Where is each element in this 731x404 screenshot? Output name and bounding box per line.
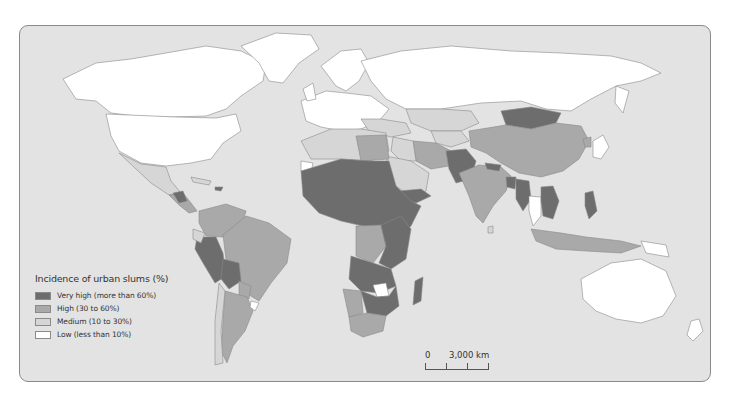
legend-item-low: Low (less than 10%) xyxy=(35,328,168,341)
legend-swatch-high xyxy=(35,305,51,313)
legend-label-high: High (30 to 60%) xyxy=(57,304,119,313)
kamchatka xyxy=(615,86,629,113)
indonesia-malaysia xyxy=(531,229,641,253)
iraq-syria xyxy=(391,137,416,161)
legend-swatch-very-high xyxy=(35,292,51,300)
sri-lanka xyxy=(488,226,493,233)
canada-alaska xyxy=(63,46,266,117)
brazil xyxy=(223,216,291,301)
map-panel: Incidence of urban slums (%) Very high (… xyxy=(19,25,711,382)
legend-label-low: Low (less than 10%) xyxy=(57,330,131,339)
philippines xyxy=(585,191,597,219)
scandinavia xyxy=(321,49,369,91)
haiti xyxy=(215,187,223,191)
legend-item-very-high: Very high (more than 60%) xyxy=(35,289,168,302)
uk xyxy=(303,83,316,101)
new-guinea xyxy=(641,241,669,257)
legend-item-medium: Medium (10 to 30%) xyxy=(35,315,168,328)
south-africa xyxy=(349,313,386,337)
legend-title: Incidence of urban slums (%) xyxy=(35,273,168,284)
legend-swatch-medium xyxy=(35,318,51,326)
bolivia xyxy=(221,259,241,289)
argentina xyxy=(221,291,253,363)
madagascar xyxy=(413,277,423,305)
india xyxy=(459,165,511,223)
legend-label-medium: Medium (10 to 30%) xyxy=(57,317,132,326)
legend-swatch-low xyxy=(35,331,51,339)
legend: Incidence of urban slums (%) Very high (… xyxy=(35,273,168,341)
australia xyxy=(581,259,676,323)
namibia xyxy=(343,289,363,317)
laos-cambodia-vietnam xyxy=(541,186,559,219)
scale-max-label: 3,000 km xyxy=(449,350,489,360)
scale-zero-label: 0 xyxy=(425,350,430,360)
korea-japan xyxy=(593,135,609,159)
new-zealand xyxy=(687,319,703,341)
scale-ruler xyxy=(425,363,489,370)
legend-item-high: High (30 to 60%) xyxy=(35,302,168,315)
egypt xyxy=(356,135,389,161)
thailand xyxy=(529,196,541,226)
legend-label-very-high: Very high (more than 60%) xyxy=(57,291,156,300)
bangladesh xyxy=(506,177,516,189)
cuba xyxy=(191,177,211,185)
zimbabwe xyxy=(373,283,389,297)
kazakhstan xyxy=(406,109,479,131)
